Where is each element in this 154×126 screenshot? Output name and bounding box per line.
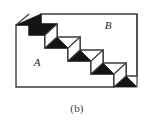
- region-label-b: B: [105, 19, 112, 31]
- figure-container: A B (b): [0, 0, 154, 126]
- staircase-diagram: A B: [0, 0, 154, 104]
- figure-caption: (b): [0, 102, 154, 114]
- region-label-a: A: [33, 56, 41, 68]
